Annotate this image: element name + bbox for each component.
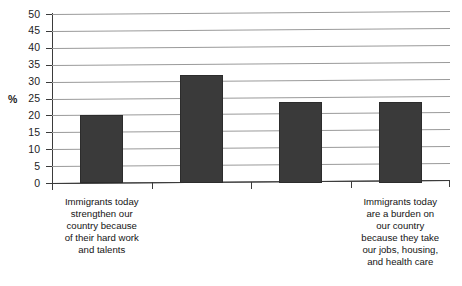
gridline bbox=[52, 45, 450, 49]
gridline bbox=[52, 96, 450, 100]
y-axis-tick-label: 45 bbox=[28, 25, 40, 35]
x-axis-category-label: Immigrants today strengthen our country … bbox=[43, 196, 161, 256]
y-axis-tick-label: 35 bbox=[28, 59, 40, 69]
y-axis-tick-labels: 50454035302520151050 bbox=[14, 0, 40, 286]
x-axis-tick-marks bbox=[52, 183, 450, 193]
x-axis-category-label: Immigrants today are a burden on our cou… bbox=[341, 196, 459, 269]
y-axis-tick-label: 50 bbox=[28, 9, 40, 19]
y-axis-tick-label: 25 bbox=[28, 93, 40, 103]
bar bbox=[379, 102, 422, 183]
bar bbox=[180, 75, 223, 183]
gridline bbox=[52, 28, 450, 32]
y-axis-tick-label: 15 bbox=[28, 127, 40, 137]
y-axis-tick-label: 20 bbox=[28, 110, 40, 120]
plot-area bbox=[52, 14, 450, 183]
gridline bbox=[52, 11, 450, 15]
x-axis-tick-mark bbox=[52, 183, 53, 190]
bar bbox=[80, 115, 123, 183]
bar bbox=[279, 102, 322, 183]
gridline bbox=[52, 79, 450, 83]
y-axis-title: % bbox=[8, 93, 17, 105]
bar-chart: 50454035302520151050 % Immigrants today … bbox=[0, 0, 462, 286]
y-axis-tick-label: 40 bbox=[28, 42, 40, 52]
y-axis-tick-label: 30 bbox=[28, 76, 40, 86]
y-axis-tick-label: 10 bbox=[28, 144, 40, 154]
x-axis-tick-mark bbox=[152, 182, 153, 189]
gridline bbox=[52, 62, 450, 66]
